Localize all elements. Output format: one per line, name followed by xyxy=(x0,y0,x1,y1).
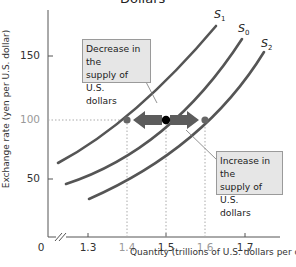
increase-leader-line xyxy=(186,130,217,160)
s2-label: S2 xyxy=(261,37,272,52)
y-tick-label-50: 50 xyxy=(16,172,40,184)
increase-callout-line-3: dollars xyxy=(220,206,279,219)
right-shift-arrow-icon xyxy=(170,111,199,129)
decrease-callout-line-1: Decrease in the xyxy=(86,42,147,68)
left-shift-arrow-icon xyxy=(133,111,162,129)
increase-callout: Increase in the supply of U.S. dollars xyxy=(216,151,283,195)
x-axis-label: Quantity (trillions of U.S. dollars per … xyxy=(130,247,296,257)
decrease-callout: Decrease in the supply of U.S. dollars xyxy=(82,39,151,83)
y-tick-label-150: 150 xyxy=(16,49,40,61)
axis-break-icon xyxy=(55,231,66,243)
decrease-callout-line-3: dollars xyxy=(86,94,147,107)
y-tick-label-100: 100 xyxy=(16,113,40,125)
guide-lines xyxy=(48,120,205,237)
s2-shift-point xyxy=(201,116,208,123)
y-axis-label: Exchange rate (yen per U.S. dollar) xyxy=(1,4,11,214)
increase-callout-line-2: supply of U.S. xyxy=(220,180,279,206)
s1-label: S1 xyxy=(214,8,225,23)
x-tick-label-0: 0 xyxy=(29,241,53,253)
decrease-callout-line-2: supply of U.S. xyxy=(86,68,147,94)
equilibrium-point xyxy=(162,116,170,124)
decrease-leader-line xyxy=(146,82,157,103)
s1-shift-point xyxy=(123,116,130,123)
x-tick-label-1.3: 1.3 xyxy=(76,241,100,253)
increase-callout-line-1: Increase in the xyxy=(220,154,279,180)
s0-label: S0 xyxy=(238,22,249,37)
